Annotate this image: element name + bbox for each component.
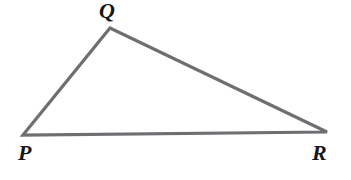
vertex-label-r: R (312, 142, 327, 164)
triangle-figure: Q P R (0, 0, 351, 180)
vertex-label-p: P (18, 142, 31, 164)
vertex-label-q: Q (99, 0, 115, 22)
triangle-shape (0, 0, 351, 180)
triangle-outline (23, 28, 327, 135)
